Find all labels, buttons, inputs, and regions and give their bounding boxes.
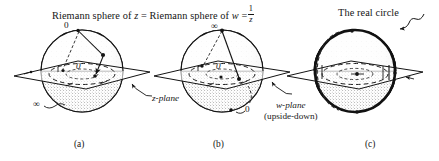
caption-a: (a) xyxy=(74,140,84,149)
title-part-2: Riemann sphere of xyxy=(150,10,229,21)
w-plane-sublabel: (upside-down) xyxy=(264,111,318,122)
panel-c-plane xyxy=(287,61,423,89)
riemann-sphere-figure: Riemann sphere of z = Riemann sphere of … xyxy=(0,0,439,161)
w-plane-label-text: w-plane xyxy=(264,100,318,111)
panel-b-wplane-leader xyxy=(272,82,281,90)
panel-a-origin-label: 0 xyxy=(76,62,81,71)
fraction-one-over-z: 1z xyxy=(248,5,254,24)
z-plane-label: z-plane xyxy=(152,94,179,103)
caption-c: (c) xyxy=(365,140,375,149)
panel-a-bottom-label: ∞ xyxy=(33,100,40,110)
fraction-denominator: z xyxy=(248,16,254,25)
panel-a-zplane-leader xyxy=(132,84,141,92)
z-plane-label-text: z-plane xyxy=(152,93,179,103)
panel-b-top-label: ∞ xyxy=(211,22,218,32)
caption-b: (b) xyxy=(213,140,224,149)
title-variable-z: z xyxy=(134,10,138,21)
title-equals-2: = xyxy=(241,10,247,21)
panel-a-top-label: 0 xyxy=(64,21,69,30)
fraction-numerator: 1 xyxy=(248,5,254,14)
panel-b-plane xyxy=(154,61,290,89)
figure-title: Riemann sphere of z = Riemann sphere of … xyxy=(52,6,255,25)
real-circle-leader xyxy=(400,14,424,29)
title-variable-w: w xyxy=(232,10,239,21)
panel-a-plane xyxy=(14,61,150,89)
real-circle-label: The real circle xyxy=(338,8,399,18)
title-equals-1: = xyxy=(141,10,147,21)
panel-b-bottom-label: 0 xyxy=(245,105,250,114)
w-plane-label-block: w-plane (upside-down) xyxy=(264,100,318,121)
panel-b-origin-label: 0 xyxy=(216,62,221,71)
